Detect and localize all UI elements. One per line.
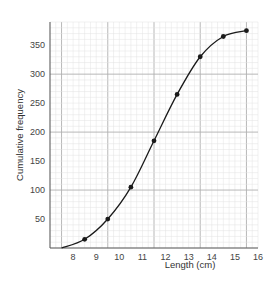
grid: [50, 22, 258, 248]
x-tick-label: 11: [138, 252, 147, 262]
y-axis-label: Cumulative frequency: [14, 89, 25, 181]
y-tick-label: 150: [30, 156, 45, 166]
data-point: [128, 185, 133, 190]
x-tick-label: 16: [253, 252, 263, 262]
x-tick-label: 10: [114, 252, 124, 262]
y-tick-label: 250: [30, 98, 45, 108]
x-tick-label: 9: [94, 252, 99, 262]
x-axis-label: Length (cm): [165, 259, 216, 270]
data-point: [82, 237, 87, 242]
cumulative-frequency-chart: 50100150200250300350 8910111213141516 Le…: [0, 0, 277, 289]
y-tick-label: 100: [30, 185, 45, 195]
data-point: [221, 34, 226, 39]
y-tick-label: 300: [30, 69, 45, 79]
y-tick-label: 50: [35, 214, 45, 224]
data-point: [175, 92, 180, 97]
y-axis-ticks: 50100150200250300350: [30, 40, 45, 224]
y-tick-label: 200: [30, 127, 45, 137]
y-tick-label: 350: [30, 40, 45, 50]
data-point: [152, 138, 157, 143]
x-tick-label: 8: [71, 252, 76, 262]
data-point: [244, 28, 249, 33]
data-point: [105, 217, 110, 222]
data-point: [198, 54, 203, 59]
x-tick-label: 15: [230, 252, 240, 262]
